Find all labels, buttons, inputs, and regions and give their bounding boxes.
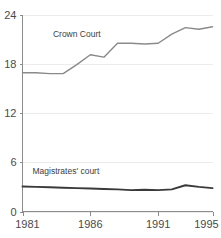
series-line-crown-court <box>23 27 213 74</box>
x-tick-label-1981: 1981 <box>15 218 39 230</box>
x-axis-tick-labels: 1981198619911995 <box>15 218 218 230</box>
y-axis-tick-labels: 06121824 <box>4 9 16 218</box>
y-tick-label-18: 18 <box>4 58 16 70</box>
y-tick-label-24: 24 <box>4 9 16 21</box>
x-tick-label-1995: 1995 <box>194 218 218 230</box>
y-tick-label-0: 0 <box>10 206 16 218</box>
gridlines-group <box>23 16 213 213</box>
y-tick-label-6: 6 <box>10 156 16 168</box>
chart-container: 06121824 1981198619911995 Crown CourtMag… <box>0 0 221 238</box>
y-tick-label-12: 12 <box>4 107 16 119</box>
series-label-crown-court: Crown Court <box>53 29 101 39</box>
x-tick-label-1986: 1986 <box>78 218 102 230</box>
x-tick-label-1991: 1991 <box>146 218 170 230</box>
series-label-magistrates-court: Magistrates' court <box>33 166 100 176</box>
series-line-magistrates-court <box>23 185 213 190</box>
series-inline-labels: Crown CourtMagistrates' court <box>33 29 102 175</box>
line-chart: 06121824 1981198619911995 Crown CourtMag… <box>0 0 221 238</box>
